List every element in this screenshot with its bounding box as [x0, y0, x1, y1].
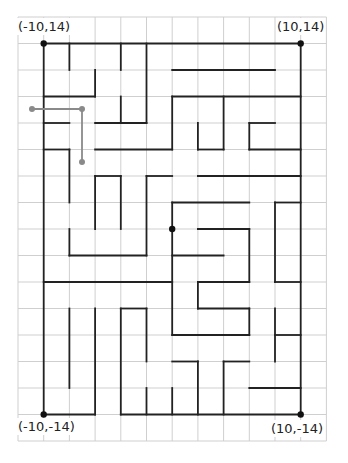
maze-diagram	[0, 0, 348, 463]
label-top-right: (10,14)	[276, 18, 325, 35]
label-bottom-left: (-10,-14)	[17, 418, 76, 435]
solution-path	[29, 106, 85, 165]
label-bottom-right: (10,-14)	[270, 420, 324, 437]
label-top-left: (-10,14)	[17, 18, 71, 35]
